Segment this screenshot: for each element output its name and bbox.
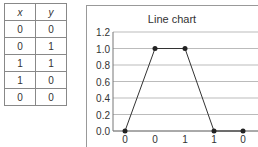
x-axis-ticks: 00110 bbox=[122, 134, 246, 145]
line-chart: Line chart 0.00.20.40.60.81.01.2 00110 bbox=[0, 0, 258, 147]
x-tick-label: 0 bbox=[240, 134, 246, 145]
x-tick-label: 0 bbox=[152, 134, 158, 145]
data-point bbox=[123, 129, 128, 134]
x-tick-label: 1 bbox=[182, 134, 188, 145]
chart-title: Line chart bbox=[148, 13, 196, 25]
data-point bbox=[212, 129, 217, 134]
y-tick-label: 0.6 bbox=[96, 77, 110, 88]
data-points bbox=[123, 46, 246, 134]
y-tick-label: 1.0 bbox=[96, 44, 110, 55]
y-tick-label: 0.8 bbox=[96, 60, 110, 71]
data-point bbox=[153, 46, 158, 51]
y-tick-label: 0.0 bbox=[96, 126, 110, 137]
x-tick-label: 0 bbox=[122, 134, 128, 145]
data-point bbox=[241, 129, 246, 134]
y-tick-label: 1.2 bbox=[96, 27, 110, 38]
y-axis-ticks: 0.00.20.40.60.81.01.2 bbox=[96, 27, 110, 137]
y-tick-label: 0.4 bbox=[96, 93, 110, 104]
data-line bbox=[125, 49, 243, 132]
x-tick-label: 1 bbox=[211, 134, 217, 145]
data-point bbox=[183, 46, 188, 51]
y-tick-label: 0.2 bbox=[96, 110, 110, 121]
